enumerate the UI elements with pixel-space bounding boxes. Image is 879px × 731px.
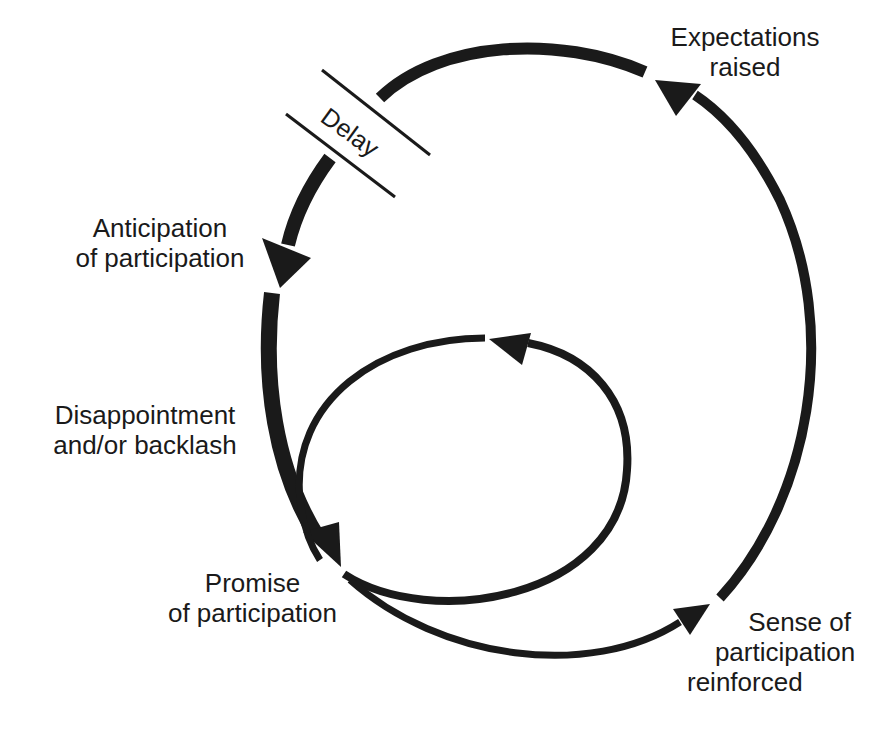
node-expectations-raised: Expectations raised xyxy=(650,22,840,82)
node-promise-line1: Promise xyxy=(140,568,365,598)
inner-loop-arc xyxy=(344,343,627,601)
node-expectations-line2: raised xyxy=(650,52,840,82)
arrowhead-inner-loop-icon xyxy=(489,333,531,365)
node-sense-line3: reinforced xyxy=(687,667,875,697)
arc-top-segment xyxy=(380,48,645,98)
node-promise: Promise of participation xyxy=(140,568,365,628)
node-disappointment: Disappointment and/or backlash xyxy=(20,400,270,460)
node-anticipation-line1: Anticipation xyxy=(40,213,280,243)
node-disappointment-line2: and/or backlash xyxy=(20,430,270,460)
node-expectations-line1: Expectations xyxy=(650,22,840,52)
arc-sense-to-expectations xyxy=(695,95,811,598)
node-anticipation: Anticipation of participation xyxy=(40,213,280,273)
node-disappointment-line1: Disappointment xyxy=(20,400,270,430)
node-sense-line2: participation xyxy=(695,637,875,667)
node-sense-reinforced: Sense of participation reinforced xyxy=(695,607,875,697)
node-promise-line2: of participation xyxy=(140,598,365,628)
node-anticipation-line2: of participation xyxy=(40,243,280,273)
diagram-canvas: Expectations raised Delay Anticipation o… xyxy=(0,0,879,731)
node-sense-line1: Sense of xyxy=(695,607,875,637)
arc-anticipation-to-promise xyxy=(269,293,318,538)
arc-delay-to-anticipation xyxy=(288,158,330,245)
